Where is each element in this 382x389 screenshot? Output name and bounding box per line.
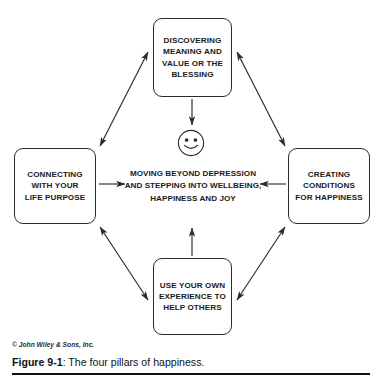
connector-left-bottom [100,227,148,300]
diagram-canvas: DISCOVERING MEANING AND VALUE OR THE BLE… [0,0,382,335]
pillar-label-use-your-own-experience: USE YOUR OWN EXPERIENCE TO HELP OTHERS [156,280,229,314]
pillar-label-discovering-meaning: DISCOVERING MEANING AND VALUE OR THE BLE… [159,35,226,80]
center-statement-text: MOVING BEYOND DEPRESSION AND STEPPING IN… [108,168,278,205]
caption-divider-rule [12,373,370,375]
connector-right-bottom [237,227,285,300]
pillar-label-connecting-life-purpose: CONNECTING WITH YOUR LIFE PURPOSE [22,169,89,203]
figure-caption: Figure 9-1: The four pillars of happines… [12,356,204,368]
figure-number: Figure 9-1 [12,356,63,368]
smiley-face-icon [177,129,205,157]
pillar-box-connecting-life-purpose[interactable]: CONNECTING WITH YOUR LIFE PURPOSE [14,148,96,224]
connector-top-right [237,52,285,146]
connector-top-left [100,52,148,146]
pillar-box-creating-conditions[interactable]: CREATING CONDITIONS FOR HAPPINESS [288,148,370,224]
copyright-credit: © John Wiley & Sons, Inc. [12,341,94,348]
caption-title: The four pillars of happiness. [68,356,204,368]
pillar-box-discovering-meaning[interactable]: DISCOVERING MEANING AND VALUE OR THE BLE… [153,18,232,97]
figure-container: DISCOVERING MEANING AND VALUE OR THE BLE… [0,0,382,389]
pillar-label-creating-conditions: CREATING CONDITIONS FOR HAPPINESS [292,169,365,203]
pillar-box-use-your-own-experience[interactable]: USE YOUR OWN EXPERIENCE TO HELP OTHERS [153,258,232,335]
caption-block: © John Wiley & Sons, Inc. Figure 9-1: Th… [0,336,382,389]
